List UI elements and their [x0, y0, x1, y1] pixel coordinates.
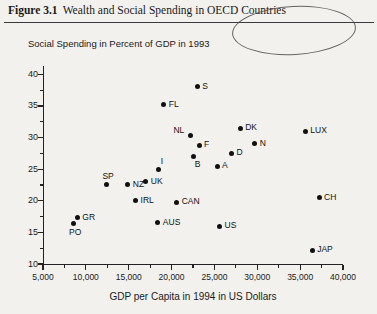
y-tick-major	[38, 74, 43, 75]
data-point-label-ch: CH	[324, 193, 336, 202]
y-tick-label-text: 35	[14, 101, 38, 110]
x-tick-major	[257, 265, 258, 270]
data-point-ch	[317, 195, 322, 200]
data-point-sp	[104, 182, 109, 187]
y-tick-label-text: 10	[14, 260, 38, 269]
y-tick-label-text: 30	[14, 133, 38, 142]
y-tick-minor	[40, 184, 43, 185]
data-point-s	[195, 84, 200, 89]
x-tick-minor	[107, 265, 108, 268]
data-point-gr	[75, 215, 80, 220]
data-point-label-d: D	[237, 148, 243, 157]
data-point-label-po: PO	[69, 228, 81, 237]
y-tick-label-text: 15	[14, 228, 38, 237]
data-point-can	[174, 200, 179, 205]
y-tick-label-text: 40	[14, 70, 38, 79]
y-tick-minor	[40, 90, 43, 91]
data-point-label-irl: IRL	[141, 196, 154, 205]
data-point-label-sp: SP	[102, 172, 113, 181]
y-tick-label-text: 20	[14, 196, 38, 205]
y-tick-label: 20	[10, 196, 38, 205]
x-tick-label: 15,000	[106, 273, 152, 282]
data-point-label-s: S	[202, 82, 208, 91]
y-tick-label: 10	[10, 260, 38, 269]
data-point-label-n: N	[260, 139, 266, 148]
y-tick-label: 25	[10, 165, 38, 174]
x-tick-minor	[278, 265, 279, 268]
x-tick-major	[128, 265, 129, 270]
y-tick-label-text: 25	[14, 165, 38, 174]
x-tick-major	[171, 265, 172, 270]
x-tick-label: 5,000	[20, 273, 66, 282]
x-tick-major	[42, 265, 43, 270]
x-tick-label: 20,000	[149, 273, 195, 282]
y-tick-minor	[40, 121, 43, 122]
x-tick-minor	[321, 265, 322, 268]
data-point-n	[252, 141, 257, 146]
x-tick-minor	[235, 265, 236, 268]
x-tick-label: 30,000	[234, 273, 280, 282]
data-point-label-i: I	[161, 157, 163, 166]
y-tick-major	[38, 137, 43, 138]
data-point-f	[197, 143, 202, 148]
data-point-label-aus: AUS	[163, 218, 180, 227]
data-point-d	[229, 151, 234, 156]
data-point-lux	[303, 129, 308, 134]
x-tick-minor	[64, 265, 65, 268]
data-point-label-dk: DK	[245, 123, 257, 132]
x-axis-title: GDP per Capita in 1994 in US Dollars	[43, 291, 343, 302]
data-point-label-b: B	[195, 160, 201, 169]
x-tick-major	[300, 265, 301, 270]
data-point-label-us: US	[225, 221, 237, 230]
data-point-i	[156, 167, 161, 172]
data-point-us	[217, 224, 222, 229]
x-tick-label: 10,000	[63, 273, 109, 282]
y-tick-label: 30	[10, 133, 38, 142]
data-point-aus	[155, 220, 160, 225]
data-point-label-fl: FL	[169, 100, 179, 109]
data-point-irl	[133, 198, 138, 203]
y-tick-label: 15	[10, 228, 38, 237]
data-point-nl	[188, 133, 193, 138]
y-tick-minor	[40, 153, 43, 154]
figure-container: Figure 3.1Wealth and Social Spending in …	[0, 0, 377, 314]
y-tick-label: 35	[10, 101, 38, 110]
data-point-label-a: A	[222, 161, 228, 170]
data-point-label-f: F	[204, 140, 209, 149]
y-tick-major	[38, 169, 43, 170]
data-point-nz	[125, 182, 130, 187]
data-point-label-gr: GR	[82, 213, 95, 222]
y-tick-major	[38, 200, 43, 201]
x-tick-major	[85, 265, 86, 270]
x-tick-minor	[150, 265, 151, 268]
data-point-label-lux: LUX	[310, 126, 327, 135]
y-tick-major	[38, 232, 43, 233]
data-point-label-nl: NL	[173, 126, 184, 135]
data-point-jap	[310, 248, 315, 253]
x-tick-minor	[192, 265, 193, 268]
scatter-plot: 101520253035405,00010,00015,00020,00025,…	[0, 0, 377, 314]
x-tick-label: 40,000	[320, 273, 366, 282]
data-point-label-can: CAN	[182, 197, 200, 206]
data-point-dk	[238, 126, 243, 131]
data-point-label-uk: UK	[151, 177, 163, 186]
x-tick-label: 25,000	[191, 273, 237, 282]
data-point-uk	[143, 179, 148, 184]
x-tick-major	[214, 265, 215, 270]
y-tick-major	[38, 105, 43, 106]
x-tick-label: 35,000	[277, 273, 323, 282]
y-tick-minor	[40, 216, 43, 217]
y-tick-minor	[40, 248, 43, 249]
y-axis-line	[43, 66, 44, 265]
y-tick-label: 40	[10, 70, 38, 79]
data-point-label-jap: JAP	[317, 245, 333, 254]
data-point-po	[71, 221, 76, 226]
data-point-fl	[161, 102, 166, 107]
data-point-a	[215, 164, 220, 169]
x-tick-major	[342, 265, 343, 270]
